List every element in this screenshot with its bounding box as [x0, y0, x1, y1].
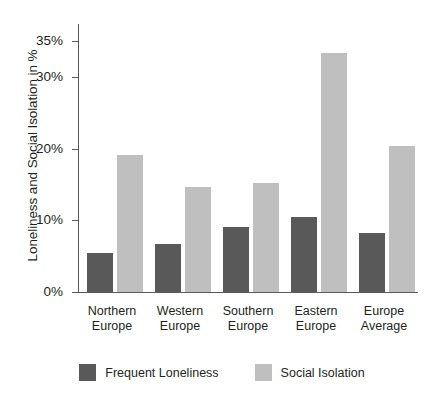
- x-axis-line: [78, 292, 418, 293]
- bar-frequent-loneliness: [223, 227, 249, 292]
- x-axis-label-europe-average: EuropeAverage: [336, 304, 432, 334]
- bar-social-isolation: [185, 187, 211, 292]
- y-axis-tick: 0%: [72, 292, 78, 293]
- bar-chart-figure: Loneliness and Social Isolation in % 0%1…: [0, 0, 444, 412]
- legend-label: Social Isolation: [281, 366, 365, 380]
- y-axis-tick: 35%: [72, 41, 78, 42]
- y-axis-tick-label: 0%: [43, 284, 63, 299]
- y-axis-tick-label: 35%: [36, 33, 63, 48]
- bar-frequent-loneliness: [359, 233, 385, 293]
- x-axis-label-line: Average: [336, 319, 432, 334]
- legend-swatch-icon: [79, 364, 96, 381]
- bar-group: [147, 24, 215, 292]
- bar-social-isolation: [321, 53, 347, 292]
- plot-area: 0%10%20%30%35%: [78, 24, 418, 293]
- bar-group: [283, 24, 351, 292]
- legend-label: Frequent Loneliness: [105, 366, 218, 380]
- y-axis-tick: 20%: [72, 149, 78, 150]
- legend-item-frequent-loneliness[interactable]: Frequent Loneliness: [79, 364, 218, 381]
- x-axis-label-line: Europe: [336, 304, 432, 319]
- legend-swatch-icon: [255, 364, 272, 381]
- bar-social-isolation: [253, 183, 279, 292]
- y-axis-tick: 30%: [72, 77, 78, 78]
- bar-group: [351, 24, 419, 292]
- bar-social-isolation: [117, 155, 143, 292]
- y-axis-tick-label: 10%: [36, 212, 63, 227]
- bar-group: [215, 24, 283, 292]
- y-axis-tick-label: 20%: [36, 141, 63, 156]
- y-axis-tick-label: 30%: [36, 69, 63, 84]
- legend-item-social-isolation[interactable]: Social Isolation: [255, 364, 365, 381]
- chart-legend: Frequent LonelinessSocial Isolation: [0, 364, 444, 381]
- bar-series-container: [79, 24, 418, 292]
- bar-frequent-loneliness: [291, 217, 317, 292]
- bar-group: [79, 24, 147, 292]
- bar-social-isolation: [389, 146, 415, 292]
- bar-frequent-loneliness: [87, 253, 113, 292]
- bar-frequent-loneliness: [155, 244, 181, 292]
- y-axis-tick: 10%: [72, 220, 78, 221]
